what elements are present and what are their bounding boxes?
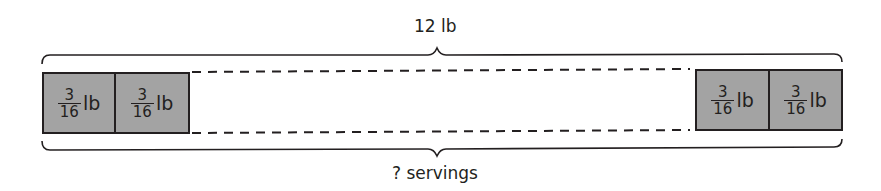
segment-box: 3 16 lb — [695, 69, 770, 131]
segment-box: 3 16 lb — [768, 69, 843, 131]
fraction: 3 16 — [58, 87, 81, 120]
unit-label: lb — [809, 89, 826, 111]
top-brace — [42, 48, 842, 64]
fraction: 3 16 — [711, 84, 734, 117]
bottom-brace — [42, 139, 842, 156]
fraction: 3 16 — [131, 87, 154, 120]
segment-box: 3 16 lb — [42, 72, 116, 134]
unit-label: lb — [736, 89, 753, 111]
unit-label: lb — [83, 92, 100, 114]
fraction: 3 16 — [784, 84, 807, 117]
total-label: 12 lb — [414, 16, 457, 36]
unit-label: lb — [156, 92, 173, 114]
dashed-top-line — [192, 69, 690, 72]
segment-box: 3 16 lb — [114, 72, 190, 134]
dashed-bottom-line — [192, 130, 690, 133]
count-label: ? servings — [392, 163, 478, 183]
